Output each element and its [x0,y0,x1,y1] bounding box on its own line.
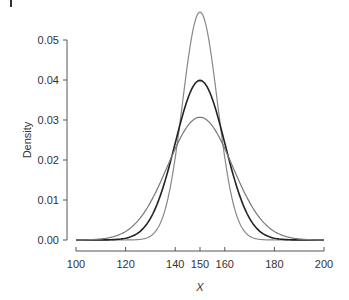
y-tick-label: 0.05 [38,34,59,46]
density-curves [76,12,324,240]
x-axis-title: X [195,281,204,293]
x-tick-label: 140 [166,258,184,270]
y-tick-label: 0.00 [38,234,59,246]
density-curve [76,80,324,240]
y-axis-title: Density [21,121,33,158]
y-tick-label: 0.03 [38,114,59,126]
density-chart: 0.000.010.020.030.040.05 100120140150160… [0,0,349,300]
y-tick-label: 0.04 [38,74,59,86]
y-tick-label: 0.01 [38,194,59,206]
density-curve [76,117,324,240]
x-tick-label: 200 [315,258,333,270]
x-axis: 100120140150160180200 [67,247,333,270]
y-tick-label: 0.02 [38,154,59,166]
x-tick-label: 160 [216,258,234,270]
density-curve [76,12,324,240]
x-tick-label: 100 [67,258,85,270]
x-tick-label: 180 [265,258,283,270]
x-tick-label: 120 [116,258,134,270]
y-axis: 0.000.010.020.030.040.05 [38,34,67,246]
x-tick-label: 150 [191,258,209,270]
